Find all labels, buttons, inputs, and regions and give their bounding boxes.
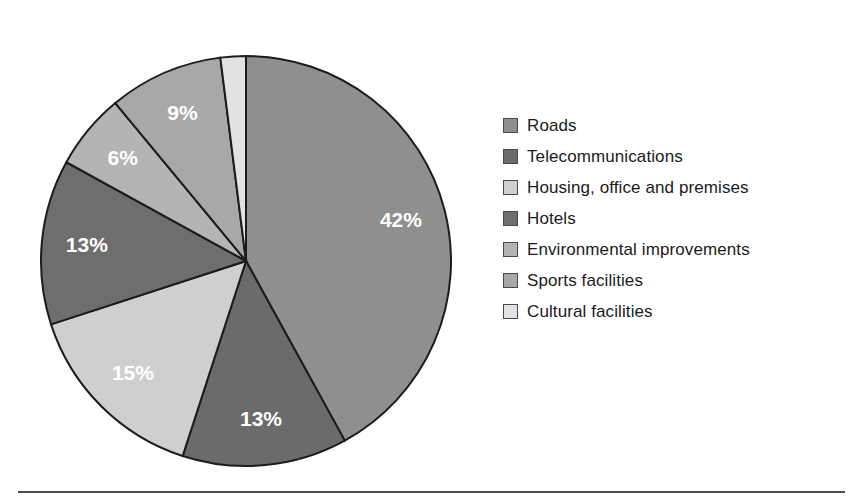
legend-item-label: Environmental improvements — [527, 240, 750, 259]
legend-item-label: Roads — [527, 116, 577, 135]
legend-item[interactable]: Roads — [503, 110, 833, 140]
legend-item-label: Hotels — [527, 209, 576, 228]
legend-swatch-icon — [503, 211, 518, 226]
pie-slice-value-label: 13% — [240, 407, 282, 430]
legend-item[interactable]: Hotels — [503, 203, 833, 233]
pie-chart-plot-area: 42%13%15%13%6%9%2% — [38, 44, 458, 480]
chart-legend: RoadsTelecommunicationsHousing, office a… — [503, 110, 833, 327]
legend-swatch-icon — [503, 149, 518, 164]
pie-slice-value-label: 42% — [380, 208, 422, 231]
legend-swatch-icon — [503, 242, 518, 257]
legend-swatch-icon — [503, 180, 518, 195]
pie-slice-value-label: 15% — [112, 361, 154, 384]
legend-swatch-icon — [503, 304, 518, 319]
legend-item[interactable]: Sports facilities — [503, 265, 833, 295]
legend-item[interactable]: Environmental improvements — [503, 234, 833, 264]
pie-chart-figure: 42%13%15%13%6%9%2% RoadsTelecommunicatio… — [0, 0, 862, 499]
pie-slice-value-label: 13% — [66, 233, 108, 256]
pie-slice-group — [41, 56, 451, 466]
legend-item-label: Cultural facilities — [527, 302, 653, 321]
legend-item[interactable]: Housing, office and premises — [503, 172, 833, 202]
legend-swatch-icon — [503, 273, 518, 288]
legend-item[interactable]: Telecommunications — [503, 141, 833, 171]
pie-slice-value-label: 9% — [167, 101, 198, 124]
legend-item-label: Sports facilities — [527, 271, 643, 290]
pie-chart-svg: 42%13%15%13%6%9%2% — [38, 44, 458, 480]
pie-slice-value-label: 6% — [108, 146, 139, 169]
bottom-divider-rule — [18, 491, 845, 493]
legend-item-label: Housing, office and premises — [527, 178, 749, 197]
legend-item[interactable]: Cultural facilities — [503, 296, 833, 326]
legend-swatch-icon — [503, 118, 518, 133]
legend-item-label: Telecommunications — [527, 147, 683, 166]
